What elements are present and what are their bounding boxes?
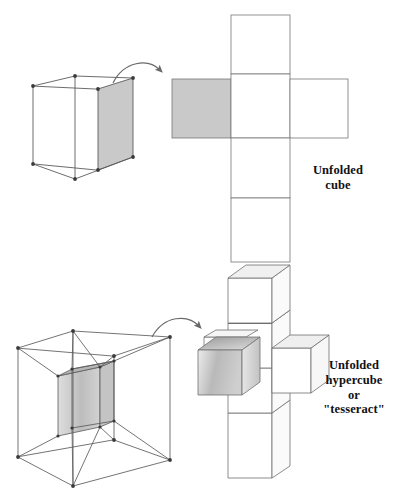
tesseract-vertex xyxy=(112,419,115,422)
cube-vertex xyxy=(31,162,35,166)
wireframe-cube xyxy=(31,74,135,181)
hypercube-net-cell-bottom-side xyxy=(272,400,290,478)
caption-unfolded-cube-line1: Unfolded xyxy=(296,163,380,178)
cube-vertex xyxy=(96,87,100,91)
diagram-canvas xyxy=(0,0,399,503)
hypercube-net-top-cube-front xyxy=(228,278,272,323)
cube-net-face-center-low xyxy=(231,138,290,198)
tesseract-vertex xyxy=(56,374,59,377)
tesseract-connector xyxy=(18,348,58,376)
tesseract-inner-cube-side xyxy=(100,361,114,427)
cube-net-face-right xyxy=(290,79,348,138)
caption-unfolded-hypercube: Unfolded hypercube or "tesseract" xyxy=(310,358,398,417)
tesseract-connector xyxy=(73,331,100,367)
caption-unfolded-hypercube-line3: or xyxy=(310,388,398,403)
tesseract-vertex xyxy=(16,455,20,459)
tesseract-vertex xyxy=(70,426,73,429)
tesseract-vertex xyxy=(168,458,172,462)
tesseract-inner-cube-front xyxy=(58,367,100,436)
tesseract-vertex xyxy=(98,365,101,368)
cube-net-face-bottom xyxy=(231,198,290,262)
caption-unfolded-hypercube-line4: "tesseract" xyxy=(310,402,398,417)
tesseract-vertex xyxy=(98,425,101,428)
tesseract-connector xyxy=(114,337,170,361)
tesseract-connector xyxy=(114,421,170,460)
hypercube-net-cell-right-front xyxy=(272,348,311,393)
cube-vertex xyxy=(96,168,100,172)
tesseract-vertex xyxy=(56,434,59,437)
figure-root: Unfolded cube Unfolded hypercube or "tes… xyxy=(0,0,399,503)
unfold-arrow-hypercube-icon xyxy=(152,318,199,337)
cube-net-cross xyxy=(172,15,348,262)
caption-unfolded-hypercube-line2: hypercube xyxy=(310,373,398,388)
unfold-arrow-cube-icon xyxy=(113,63,160,83)
tesseract-connector xyxy=(100,427,114,440)
tesseract-connector xyxy=(73,427,100,486)
cube-vertex xyxy=(131,155,135,159)
tesseract-outer-top-face xyxy=(18,331,170,356)
cube-shaded-face xyxy=(98,78,133,170)
caption-unfolded-hypercube-line1: Unfolded xyxy=(310,358,398,373)
hypercube-net-cell-left-front xyxy=(198,350,242,395)
cube-vertex xyxy=(73,177,77,181)
cube-net-face-top xyxy=(231,15,290,74)
tesseract-vertex xyxy=(16,346,20,350)
caption-unfolded-cube: Unfolded cube xyxy=(296,163,380,193)
tesseract-vertex xyxy=(112,354,116,358)
tesseract-vertex xyxy=(71,329,75,333)
tesseract-vertex xyxy=(168,335,172,339)
caption-unfolded-cube-line2: cube xyxy=(296,178,380,193)
cube-net-face-shaded xyxy=(172,79,231,138)
cube-vertex xyxy=(73,74,77,78)
tesseract-vertex xyxy=(70,367,73,370)
cube-vertex xyxy=(131,76,135,80)
tesseract-outer-bottom-face xyxy=(18,440,170,486)
tesseract-wireframe xyxy=(16,329,172,488)
tesseract-vertex xyxy=(71,484,75,488)
tesseract-vertex xyxy=(112,359,115,362)
cube-net-face-center-up xyxy=(231,74,290,138)
cube-vertex xyxy=(31,84,35,88)
tesseract-vertex xyxy=(112,438,116,442)
hypercube-net-cell-bottom-front xyxy=(228,413,272,478)
